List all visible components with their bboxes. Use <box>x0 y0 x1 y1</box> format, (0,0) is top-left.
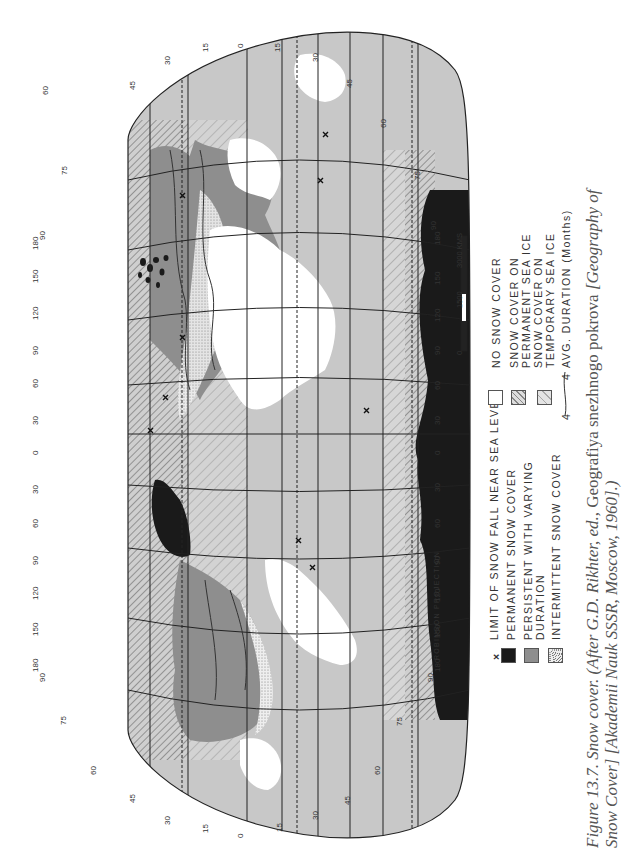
svg-text:180: 180 <box>31 658 40 672</box>
legend-label-permanent-sea-ice-1: SNOW COVER ON <box>508 257 520 368</box>
legend-label-temporary-sea-ice-2: TEMPORARY SEA ICE <box>544 233 556 368</box>
svg-text:60: 60 <box>31 519 40 528</box>
projection-label: ROBINSON PROJECTION <box>433 551 440 660</box>
svg-text:30: 30 <box>31 416 40 425</box>
svg-text:120: 120 <box>31 306 40 320</box>
svg-text:90: 90 <box>31 556 40 565</box>
snow-cover-map: 60 75 90 180 150 120 90 60 30 0 30 60 90… <box>0 0 638 868</box>
svg-text:60: 60 <box>41 86 50 95</box>
svg-text:15: 15 <box>201 824 210 833</box>
svg-text:60: 60 <box>373 766 382 775</box>
svg-text:90: 90 <box>31 346 40 355</box>
legend-swatch-permanent-sea-ice <box>511 390 526 405</box>
svg-text:75: 75 <box>395 717 404 726</box>
legend-swatch-no-snow <box>488 390 503 405</box>
svg-text:180: 180 <box>433 231 442 245</box>
scale-label-3000: 3000 KMS <box>455 233 464 268</box>
legend-label-avg-duration: AVG. DURATION (Months) <box>560 209 572 368</box>
svg-text:60: 60 <box>379 119 388 128</box>
legend-swatch-permanent <box>501 648 516 663</box>
svg-text:45: 45 <box>345 79 354 88</box>
svg-text:15: 15 <box>201 43 210 52</box>
svg-text:90: 90 <box>429 221 438 230</box>
legend-label-permanent: PERMANENT SNOW COVER <box>505 468 517 640</box>
svg-text:30: 30 <box>433 483 442 492</box>
legend-swatch-persistent <box>524 648 539 663</box>
svg-text:60: 60 <box>89 766 98 775</box>
svg-text:120: 120 <box>31 586 40 600</box>
svg-text:30: 30 <box>311 811 320 820</box>
isoline-value-right: 4 <box>560 373 572 380</box>
legend-label-permanent-sea-ice-2: PERMANENT SEA ICE <box>520 233 532 368</box>
svg-text:150: 150 <box>433 271 442 285</box>
svg-text:180: 180 <box>433 658 442 672</box>
svg-text:90: 90 <box>433 346 442 355</box>
svg-text:90: 90 <box>38 673 47 682</box>
svg-text:0: 0 <box>236 43 245 48</box>
figure-title: Snow cover. <box>583 679 602 760</box>
figure-number: Figure 13.7. <box>583 764 602 848</box>
svg-text:30: 30 <box>163 816 172 825</box>
svg-text:0: 0 <box>31 450 40 455</box>
legend-label-persistent-2: DURATION <box>534 574 546 640</box>
svg-text:75: 75 <box>59 716 68 725</box>
svg-text:150: 150 <box>31 622 40 636</box>
legend-label-temporary-sea-ice-1: SNOW COVER ON <box>532 257 544 368</box>
legend-label-intermittent: INTERMITTENT SNOW COVER <box>550 453 562 640</box>
figure-caption-line-2: Snow Cover] [Akademii Nauk SSSR, Moscow,… <box>602 480 621 848</box>
figure-source-tail: [Geography of <box>583 190 602 291</box>
svg-text:30: 30 <box>163 56 172 65</box>
svg-text:0: 0 <box>433 450 442 455</box>
svg-text:120: 120 <box>433 308 442 322</box>
svg-text:15: 15 <box>273 43 282 52</box>
svg-text:75: 75 <box>413 171 422 180</box>
figure-caption-line-1: Figure 13.7. Snow cover. (After G.D. Rik… <box>583 190 602 848</box>
scale-label-0: 0 <box>455 351 464 355</box>
svg-text:75: 75 <box>60 166 69 175</box>
svg-text:150: 150 <box>31 269 40 283</box>
svg-text:60: 60 <box>433 381 442 390</box>
figure-source-roman: Geografiya snezhnogo pokrova <box>583 294 602 507</box>
legend-label-persistent-1: PERSISTENT WITH VARYING <box>522 461 534 640</box>
legend-swatch-temporary-sea-ice <box>537 390 552 405</box>
svg-text:60: 60 <box>433 519 442 528</box>
scale-label-1500: 1500 <box>455 291 464 308</box>
globe <box>120 20 480 850</box>
svg-text:180: 180 <box>31 236 40 250</box>
svg-text:0: 0 <box>236 833 245 838</box>
svg-text:60: 60 <box>31 379 40 388</box>
svg-text:90: 90 <box>426 673 435 682</box>
svg-text:15: 15 <box>275 823 284 832</box>
legend-label-no-snow: NO SNOW COVER <box>490 257 502 368</box>
figure-source-italic: (After G.D. Rikhter, ed., <box>583 512 602 674</box>
svg-text:30: 30 <box>31 485 40 494</box>
svg-text:30: 30 <box>433 416 442 425</box>
svg-text:45: 45 <box>343 796 352 805</box>
legend-swatch-intermittent <box>548 648 563 663</box>
legend-label-snowfall-limit: LIMIT OF SNOW FALL NEAR SEA LEVEL <box>488 393 500 640</box>
svg-text:45: 45 <box>128 81 137 90</box>
svg-text:30: 30 <box>311 53 320 62</box>
svg-text:45: 45 <box>128 794 137 803</box>
